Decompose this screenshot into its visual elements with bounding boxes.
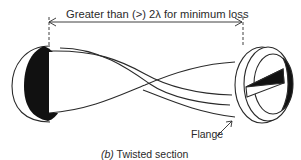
- flange: [235, 47, 293, 123]
- twisted-waveguide-diagram: Greater than (>) 2λ for minimum loss Fla…: [0, 0, 301, 160]
- figure-caption: (b) Twisted section: [101, 149, 188, 160]
- left-end-opening: [12, 46, 64, 122]
- dimension-label: Greater than (>) 2λ for minimum loss: [66, 9, 248, 20]
- flange-label: Flange: [191, 129, 223, 140]
- caption-text: Twisted section: [117, 148, 189, 160]
- caption-part: (b): [101, 148, 114, 160]
- diagram-drawing: [0, 0, 301, 160]
- dimension-line: [49, 17, 243, 46]
- twisted-waveguide-body: [49, 48, 235, 117]
